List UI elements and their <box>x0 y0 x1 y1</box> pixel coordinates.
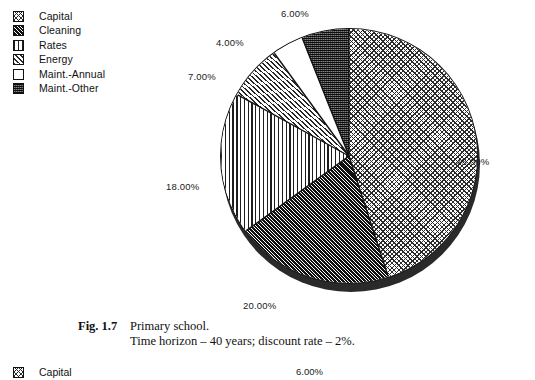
legend-label-capital: Capital <box>39 11 72 22</box>
legend-label-maint-annual: Maint.-Annual <box>39 69 105 80</box>
pie-label-maint-annual: 4.00% <box>216 37 244 48</box>
legend-swatch-rates-icon <box>13 40 24 51</box>
caption-line-1: Primary school. <box>130 319 209 333</box>
figure-caption: Fig. 1.7 Primary school. Time horizon – … <box>78 319 508 348</box>
legend-item-capital: Capital <box>13 9 163 24</box>
caption-line-2: Time horizon – 40 years; discount rate –… <box>130 334 355 348</box>
legend-swatch-maint-other-icon <box>13 83 24 94</box>
caption-figure-number: Fig. 1.7 <box>78 319 130 334</box>
chart-legend: Capital Cleaning Rates Energy Maint.-Ann… <box>13 9 163 96</box>
legend-item-rates: Rates <box>13 38 163 53</box>
next-figure-preview: Capital 6.00% <box>0 363 535 380</box>
legend-label-energy: Energy <box>39 54 73 65</box>
pie-chart: 6.00% 4.00% 7.00% 18.00% 20.00% 45.00% <box>188 8 535 326</box>
legend-label-maint-other: Maint.-Other <box>39 83 99 94</box>
legend-label-cleaning: Cleaning <box>39 25 81 36</box>
legend-item-maint-other: Maint.-Other <box>13 82 163 97</box>
legend-swatch-cleaning-icon <box>13 25 24 36</box>
legend-item-maint-annual: Maint.-Annual <box>13 67 163 82</box>
next-legend-item-capital: Capital <box>13 366 72 378</box>
pie-label-rates: 18.00% <box>166 181 199 192</box>
legend-swatch-capital-icon <box>13 11 24 22</box>
pie-label-capital: 45.00% <box>456 156 489 167</box>
pie-disc <box>220 28 478 284</box>
legend-item-cleaning: Cleaning <box>13 24 163 39</box>
pie-label-maint-other: 6.00% <box>281 8 309 19</box>
next-legend-swatch-capital-icon <box>13 367 24 378</box>
legend-label-rates: Rates <box>39 40 67 51</box>
pie-slice-maint-other <box>221 29 477 283</box>
next-legend-label-capital: Capital <box>39 366 72 378</box>
next-pie-label-first: 6.00% <box>296 366 323 377</box>
pie-graphic <box>220 28 482 296</box>
legend-item-energy: Energy <box>13 53 163 68</box>
legend-swatch-energy-icon <box>13 54 24 65</box>
pie-label-energy: 7.00% <box>188 71 216 82</box>
pie-label-cleaning: 20.00% <box>243 300 276 311</box>
legend-swatch-maint-annual-icon <box>13 69 24 80</box>
